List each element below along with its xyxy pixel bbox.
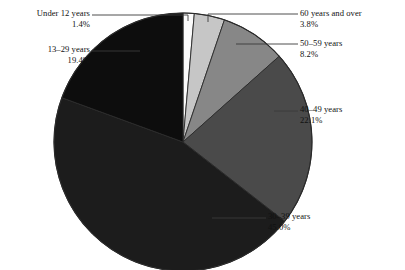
callout-under-12-years: Under 12 years 1.4% — [2, 8, 90, 29]
callout-percent-60-years-and-over: 3.8% — [300, 19, 403, 30]
callout-label-13-29-years: 13–29 years — [2, 44, 90, 55]
callout-percent-50-59-years: 8.2% — [300, 49, 403, 60]
callout-percent-under-12-years: 1.4% — [2, 19, 90, 30]
callout-label-40-49-years: 40–49 years — [300, 104, 403, 115]
callout-40-49-years: 40–49 years 22.1% — [300, 104, 403, 125]
callout-percent-30-39-years: 45.0% — [268, 222, 398, 233]
callout-label-30-39-years: 30–39 years — [268, 211, 398, 222]
callout-60-years-and-over: 60 years and over 3.8% — [300, 8, 403, 29]
callout-30-39-years: 30–39 years 45.0% — [268, 211, 398, 232]
callout-50-59-years: 50–59 years 8.2% — [300, 38, 403, 59]
callout-percent-13-29-years: 19.4% — [2, 55, 90, 66]
callout-percent-40-49-years: 22.1% — [300, 115, 403, 126]
callout-label-under-12-years: Under 12 years — [2, 8, 90, 19]
callout-label-60-years-and-over: 60 years and over — [300, 8, 403, 19]
callout-label-50-59-years: 50–59 years — [300, 38, 403, 49]
pie-chart: Under 12 years 1.4% 13–29 years 19.4% 60… — [0, 0, 405, 270]
callout-13-29-years: 13–29 years 19.4% — [2, 44, 90, 65]
